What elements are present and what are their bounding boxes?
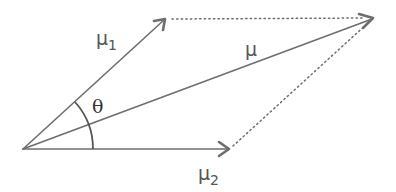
label-mu: μ (245, 38, 257, 60)
vector-mu (23, 14, 373, 149)
label-theta: θ (92, 95, 103, 117)
label-mu1: μ1 (96, 27, 117, 53)
dotted-top-line (172, 18, 364, 19)
vector-mu2 (23, 142, 229, 156)
label-mu2: μ2 (198, 162, 219, 188)
vector-mu1 (23, 19, 165, 149)
vector-diagram: μ1 μ μ2 θ (0, 0, 396, 192)
